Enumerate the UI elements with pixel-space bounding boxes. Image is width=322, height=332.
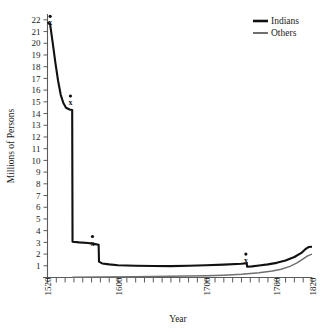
y-axis-tick-labels: 12345678910111213141516171819202122 (32, 15, 42, 271)
y-tick-label: 2 (36, 249, 41, 259)
y-tick-label: 21 (32, 27, 41, 37)
x-axis-title: Year (169, 314, 187, 324)
x-tick-label: 1600 (114, 277, 124, 296)
y-tick-label: 3 (36, 238, 41, 248)
series-line-indians (48, 22, 313, 267)
y-tick-label: 12 (32, 132, 41, 142)
y-tick-label: 17 (32, 74, 42, 84)
y-tick-label: 19 (32, 50, 42, 60)
annotation-x-label: x (68, 98, 72, 107)
y-axis-ticks (44, 20, 48, 266)
plot-area: 12345678910111213141516171819202122 1520… (32, 14, 318, 296)
y-tick-label: 14 (32, 109, 42, 119)
y-tick-label: 22 (32, 15, 41, 25)
y-tick-label: 1 (36, 261, 41, 271)
x-tick-label: 1520 (43, 277, 53, 296)
y-tick-label: 13 (32, 120, 42, 130)
y-tick-label: 6 (36, 202, 41, 212)
y-tick-label: 8 (36, 179, 41, 189)
chart-annotations: xxxx (48, 15, 248, 265)
x-tick-label: 1780 (272, 277, 282, 296)
y-tick-label: 7 (36, 191, 41, 201)
legend-label-indians: Indians (271, 16, 299, 26)
x-tick-label: 1820 (308, 277, 318, 296)
population-decline-line-chart: 12345678910111213141516171819202122 1520… (0, 0, 322, 332)
chart-container: 12345678910111213141516171819202122 1520… (0, 0, 322, 332)
y-tick-label: 9 (36, 167, 41, 177)
y-tick-label: 20 (32, 38, 42, 48)
y-tick-label: 16 (32, 85, 42, 95)
x-tick-label: 1700 (202, 277, 212, 296)
annotation-x-label: x (48, 18, 52, 27)
legend: Indians Others (253, 16, 299, 38)
y-tick-label: 4 (36, 226, 41, 236)
annotation-x-label: x (90, 239, 94, 248)
y-tick-label: 15 (32, 97, 42, 107)
y-tick-label: 18 (32, 62, 42, 72)
y-tick-label: 10 (32, 156, 42, 166)
y-axis-title: Millions of Persons (6, 108, 16, 183)
y-tick-label: 5 (36, 214, 41, 224)
annotation-x-label: x (244, 256, 248, 265)
legend-label-others: Others (271, 28, 297, 38)
y-tick-label: 11 (32, 144, 41, 154)
